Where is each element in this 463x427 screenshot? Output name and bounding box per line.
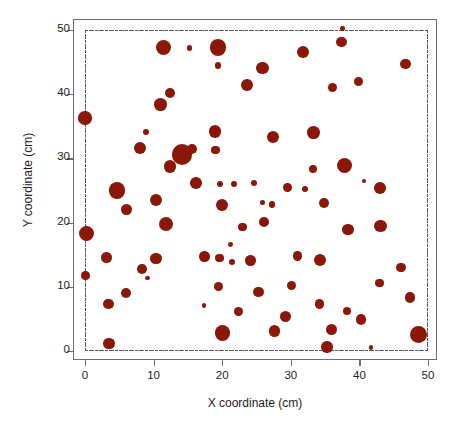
x-axis-tick-label: 0 — [65, 369, 105, 381]
x-axis-tick — [85, 360, 86, 366]
y-axis-tick-label: 40 — [30, 86, 70, 98]
scatter-plot-figure: 0102030405001020304050 Y coordinate (cm)… — [0, 0, 463, 427]
y-axis-title: Y coordinate (cm) — [21, 90, 35, 270]
x-axis-tick — [359, 360, 360, 366]
x-axis-tick — [428, 360, 429, 366]
x-axis-tick-label: 50 — [408, 369, 448, 381]
x-axis-tick — [222, 360, 223, 366]
x-axis-tick-label: 40 — [339, 369, 379, 381]
plot-frame — [73, 19, 437, 360]
y-axis-tick-label: 50 — [30, 22, 70, 34]
x-axis-title: X coordinate (cm) — [73, 396, 437, 410]
y-axis-tick-label: 20 — [30, 215, 70, 227]
x-axis-tick — [291, 360, 292, 366]
x-axis-tick-label: 10 — [134, 369, 174, 381]
y-axis-tick-label: 30 — [30, 150, 70, 162]
x-axis-tick-label: 30 — [271, 369, 311, 381]
y-axis-tick-label: 10 — [30, 279, 70, 291]
x-axis-tick — [154, 360, 155, 366]
y-axis-tick-label: 0 — [30, 343, 70, 355]
x-axis-tick-label: 20 — [202, 369, 242, 381]
